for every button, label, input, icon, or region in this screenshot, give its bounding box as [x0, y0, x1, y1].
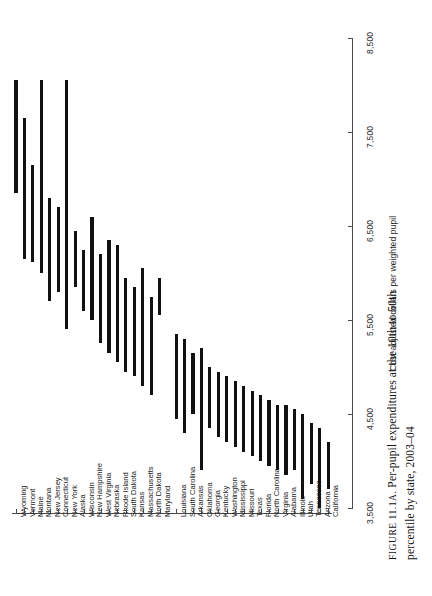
category-tick: [210, 509, 211, 513]
value-tick-label: 6,500: [365, 220, 375, 242]
value-tick: [348, 320, 353, 321]
range-bar: [124, 278, 127, 372]
value-tick-label: 4,500: [365, 408, 375, 430]
value-tick: [348, 414, 353, 415]
category-tick: [84, 509, 85, 513]
category-tick: [67, 509, 68, 513]
value-tick: [348, 38, 353, 39]
range-bar: [57, 207, 60, 292]
range-bar: [141, 268, 144, 386]
figure-caption-line-1: FIGURE 11.1A. Per-pupil expenditures at …: [386, 291, 398, 560]
range-bar: [99, 254, 102, 343]
figure-caption-text-1: Per-pupil expenditures at the 10th to 50…: [386, 291, 398, 488]
range-bar: [191, 353, 194, 414]
range-bar: [14, 80, 17, 193]
category-tick: [218, 509, 219, 513]
figure-page: WyomingVermontMaineMontanaNew JerseyConn…: [0, 0, 432, 596]
category-tick: [24, 509, 25, 513]
range-bar: [267, 400, 270, 466]
range-bar: [310, 423, 313, 484]
category-tick: [269, 509, 270, 513]
value-tick: [348, 132, 353, 133]
category-tick: [261, 509, 262, 513]
category-tick: [227, 509, 228, 513]
category-axis-label: California: [331, 485, 340, 517]
range-bar: [327, 442, 330, 489]
range-bar: [208, 367, 211, 428]
value-tick-label: 7,500: [365, 126, 375, 148]
category-tick: [235, 509, 236, 513]
category-tick: [134, 509, 135, 513]
range-bar: [48, 198, 51, 301]
range-bar: [242, 386, 245, 452]
value-tick-label: 5,500: [365, 314, 375, 336]
figure-caption-number: FIGURE 11.1A.: [387, 491, 398, 560]
value-tick: [348, 508, 353, 509]
category-tick: [278, 509, 279, 513]
range-bar: [301, 414, 304, 499]
category-tick: [311, 509, 312, 513]
category-tick: [193, 509, 194, 513]
category-tick: [328, 509, 329, 513]
range-bar: [90, 217, 93, 320]
category-tick: [126, 509, 127, 513]
range-bar: [133, 287, 136, 376]
range-bar: [40, 80, 43, 273]
range-bar: [107, 240, 110, 353]
value-tick-label: 3,500: [365, 502, 375, 524]
category-tick: [176, 509, 177, 513]
range-bar: [183, 339, 186, 433]
range-bar: [150, 297, 153, 396]
category-tick: [117, 509, 118, 513]
range-bar: [175, 334, 178, 419]
range-bar: [293, 409, 296, 470]
category-tick: [252, 509, 253, 513]
category-tick: [143, 509, 144, 513]
category-tick: [75, 509, 76, 513]
category-tick: [303, 509, 304, 513]
value-tick-label: 8,500: [365, 32, 375, 54]
range-bar: [31, 165, 34, 262]
range-bar: [225, 376, 228, 442]
category-tick: [185, 509, 186, 513]
category-tick: [16, 509, 17, 513]
category-tick: [58, 509, 59, 513]
category-tick: [286, 509, 287, 513]
category-tick: [294, 509, 295, 513]
range-bar: [82, 250, 85, 311]
category-axis-label: Maryland: [163, 486, 172, 517]
range-bar: [158, 278, 161, 316]
category-tick: [109, 509, 110, 513]
category-tick: [41, 509, 42, 513]
range-bar: [276, 405, 279, 471]
range-bar: [65, 80, 68, 329]
range-bar: [116, 245, 119, 363]
category-tick: [244, 509, 245, 513]
category-tick: [101, 509, 102, 513]
category-tick: [151, 509, 152, 513]
range-bar: [234, 381, 237, 447]
category-tick: [201, 509, 202, 513]
category-tick: [50, 509, 51, 513]
category-axis-label: Texas: [255, 497, 264, 517]
value-tick: [348, 226, 353, 227]
category-tick: [33, 509, 34, 513]
range-bar: [200, 348, 203, 470]
category-axis-label: Alaska: [78, 494, 87, 517]
category-tick: [320, 509, 321, 513]
category-tick: [92, 509, 93, 513]
range-bar: [259, 395, 262, 461]
range-bar: [74, 231, 77, 287]
range-bar: [23, 118, 26, 259]
category-tick: [160, 509, 161, 513]
range-bar: [251, 391, 254, 457]
range-bar: [217, 372, 220, 438]
figure-caption-line-2: percentile by state, 2003–04: [404, 426, 416, 560]
value-axis-line: [352, 38, 353, 508]
range-bar: [284, 405, 287, 476]
